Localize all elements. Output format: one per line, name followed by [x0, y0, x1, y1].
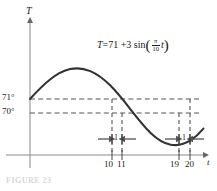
interval-label-left: 1 [114, 134, 118, 142]
equation-fraction-denominator: 10 [152, 46, 161, 53]
interval-label-right: 1 [182, 134, 186, 142]
equation-constant: 71 [108, 39, 118, 50]
x-tick-label-19: 19 [170, 160, 179, 169]
x-tick-label-11: 11 [117, 160, 126, 169]
y-axis-label: T [26, 6, 32, 16]
figure-caption: FIGURE 23 [6, 176, 52, 185]
y-tick-label-70: 70° [2, 107, 15, 116]
equation-amplitude: 3 [126, 39, 131, 50]
y-tick-label-71: 71° [2, 93, 15, 102]
equation-fraction: π10 [152, 38, 161, 53]
x-tick-label-10: 10 [104, 160, 113, 169]
equation-close-paren: ) [164, 37, 169, 53]
figure-container: T t 71° 70° 10 11 19 20 1 1 T=71 +3 sin(… [0, 0, 217, 191]
x-tick-label-20: 20 [185, 160, 194, 169]
equation-function: sin [134, 39, 146, 50]
equation-annotation: T=71 +3 sin(π10t) [97, 38, 169, 53]
x-axis-label: t [207, 158, 210, 167]
equation-open-paren: ( [146, 37, 151, 53]
